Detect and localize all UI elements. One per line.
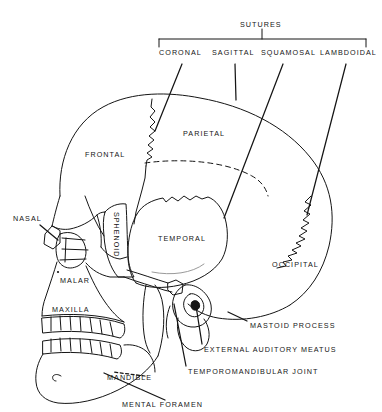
bone-label-maxilla: MAXILLA (52, 305, 90, 314)
bone-label-sphenoid: SPHENOID (112, 212, 121, 258)
bone-label-malar: MALAR (60, 276, 90, 285)
bone-label-temporal: TEMPORAL (158, 234, 206, 243)
feature-label-temporomandibular-joint: TEMPOROMANDIBULAR JOINT (188, 367, 318, 376)
cranial-vault-outline (60, 94, 332, 319)
suture-bracket (159, 29, 366, 47)
bone-label-frontal: FRONTAL (85, 150, 125, 159)
nasal-bones-and-aperture (44, 226, 88, 268)
lambdoidal-suture (277, 196, 311, 268)
suture-label-coronal: CORONAL (159, 48, 202, 57)
bone-label-occipital: OCCIPITAL (272, 260, 319, 269)
skull-diagram-figure: SUTURES CORONAL SAGITTAL SQUAMOSAL LAMBD… (0, 0, 382, 412)
leader-squamosal (224, 64, 283, 218)
bone-label-nasal: NASAL (13, 214, 42, 223)
sutures-heading: SUTURES (240, 20, 282, 29)
maxilla-and-upper-teeth (42, 262, 125, 338)
leader-sagittal (235, 64, 236, 100)
feature-label-mental-foramen: MENTAL FORAMEN (122, 400, 203, 409)
leader-lambdoidal (307, 64, 346, 215)
temporal-line-dashed (145, 161, 268, 196)
suture-label-lambdoidal: LAMBDOIDAL (320, 48, 377, 57)
suture-label-sagittal: SAGITTAL (212, 48, 255, 57)
suture-leader-lines (155, 64, 346, 218)
malar-zygomatic-outline (86, 215, 183, 295)
mandible-outline (36, 285, 164, 403)
leader-temporomandibular-joint (174, 304, 186, 366)
feature-label-external-auditory-meatus: EXTERNAL AUDITORY MEATUS (204, 345, 337, 354)
suture-label-squamosal: SQUAMOSAL (261, 48, 316, 57)
bone-label-parietal: PARIETAL (183, 129, 225, 138)
feature-label-mastoid-process: MASTOID PROCESS (250, 321, 336, 330)
bone-label-mandible: MANDIBLE (107, 373, 152, 382)
leader-coronal (155, 64, 182, 131)
